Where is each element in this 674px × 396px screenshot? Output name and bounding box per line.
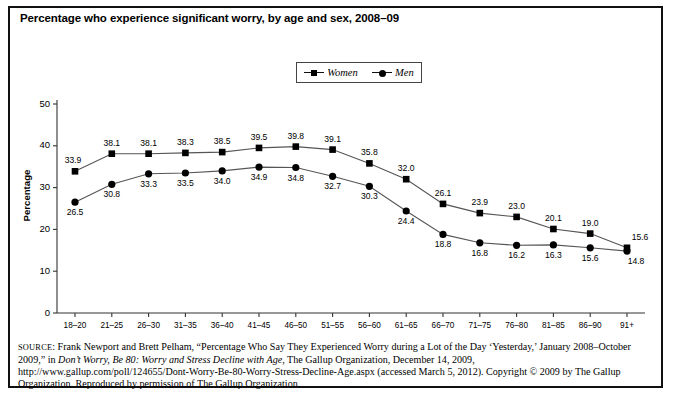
chart-axes (57, 100, 645, 313)
y-tick-label: 40 (39, 139, 50, 150)
data-point-women (329, 146, 336, 153)
data-point-women (477, 210, 484, 217)
source-note: SOURCE: Frank Newport and Brett Pelham, … (18, 341, 648, 390)
data-point-men (439, 231, 446, 238)
data-point-women (109, 150, 116, 157)
data-label-women: 38.1 (140, 138, 157, 148)
data-label-women: 38.3 (177, 137, 194, 147)
data-point-men (587, 244, 594, 251)
y-tick-label: 20 (39, 223, 50, 234)
data-point-men (366, 183, 373, 190)
data-point-men (71, 199, 78, 206)
data-label-men: 16.8 (471, 248, 488, 258)
data-label-men: 16.3 (545, 250, 562, 260)
data-label-women: 39.1 (324, 134, 341, 144)
x-tick-label: 91+ (620, 321, 634, 330)
x-tick-label: 46–50 (284, 321, 307, 330)
data-point-men (219, 167, 226, 174)
data-point-men (550, 241, 557, 248)
x-tick-label: 66–70 (432, 321, 455, 330)
source-italic-title: Don’t Worry, Be 80: Worry and Stress Dec… (58, 354, 282, 365)
x-axis-ticks: 18–2021–2526–3031–3536–4041–4546–5051–55… (64, 313, 635, 330)
data-label-women: 33.9 (65, 155, 82, 165)
data-point-women (182, 150, 189, 157)
data-point-men (329, 173, 336, 180)
data-label-women: 39.5 (251, 132, 268, 142)
data-label-men: 26.5 (67, 207, 84, 217)
data-label-men: 30.3 (361, 191, 378, 201)
data-label-men: 32.7 (324, 181, 341, 191)
data-label-men: 34.9 (251, 172, 268, 182)
data-label-women: 19.0 (582, 218, 599, 228)
x-tick-label: 21–25 (100, 321, 123, 330)
data-label-men: 14.8 (628, 256, 645, 266)
data-point-women (440, 201, 447, 208)
data-point-men (292, 164, 299, 171)
x-tick-label: 41–45 (248, 321, 271, 330)
data-point-women (587, 230, 594, 237)
x-tick-label: 18–20 (64, 321, 87, 330)
y-tick-label: 30 (39, 181, 50, 192)
data-point-men (476, 239, 483, 246)
source-prefix: SOURCE (18, 343, 52, 352)
data-point-men (255, 164, 262, 171)
data-label-women: 35.8 (361, 147, 378, 157)
data-point-women (145, 150, 152, 157)
data-label-women: 23.0 (508, 201, 525, 211)
y-tick-label: 50 (39, 98, 50, 109)
x-tick-label: 86–90 (579, 321, 602, 330)
data-point-men (513, 242, 520, 249)
x-tick-label: 56–60 (358, 321, 381, 330)
data-label-men: 16.2 (508, 250, 525, 260)
x-tick-label: 26–30 (137, 321, 160, 330)
x-tick-label: 76–80 (505, 321, 528, 330)
data-label-men: 34.0 (214, 176, 231, 186)
data-point-men (182, 169, 189, 176)
data-point-men (108, 181, 115, 188)
data-label-men: 15.6 (582, 253, 599, 263)
y-tick-label: 10 (39, 265, 50, 276)
data-label-women: 15.6 (632, 232, 649, 242)
data-label-men: 34.8 (287, 173, 304, 183)
data-label-women: 39.8 (287, 131, 304, 141)
chart-series (71, 143, 630, 254)
data-point-men (145, 170, 152, 177)
x-tick-label: 61–65 (395, 321, 418, 330)
data-point-women (256, 145, 263, 152)
x-tick-label: 36–40 (211, 321, 234, 330)
x-tick-label: 81–85 (542, 321, 565, 330)
series-line-men (75, 167, 627, 251)
data-point-men (623, 248, 630, 255)
data-label-men: 24.4 (398, 216, 415, 226)
data-point-women (366, 160, 373, 167)
data-point-women (72, 168, 79, 175)
x-tick-label: 31–35 (174, 321, 197, 330)
data-label-men: 33.5 (177, 178, 194, 188)
y-tick-label: 0 (45, 307, 50, 318)
x-tick-label: 51–55 (321, 321, 344, 330)
data-point-men (403, 207, 410, 214)
data-point-women (219, 149, 226, 156)
data-label-women: 32.0 (398, 163, 415, 173)
data-label-men: 33.3 (140, 179, 157, 189)
figure-panel: Percentage who experience significant wo… (0, 0, 674, 396)
data-point-women (550, 226, 557, 233)
y-axis-ticks: 01020304050 (39, 98, 57, 318)
data-point-women (293, 143, 300, 150)
data-label-women: 26.1 (435, 188, 452, 198)
data-label-women: 38.5 (214, 136, 231, 146)
data-label-men: 18.8 (435, 239, 452, 249)
series-line-women (75, 147, 627, 248)
chart-plot-area: 01020304050 18–2021–2526–3031–3536–4041–… (0, 0, 674, 396)
data-label-men: 30.8 (103, 189, 120, 199)
data-label-women: 38.1 (103, 138, 120, 148)
data-label-women: 20.1 (545, 213, 562, 223)
data-point-women (513, 214, 520, 221)
data-point-women (403, 176, 410, 183)
data-label-women: 23.9 (471, 197, 488, 207)
x-tick-label: 71–75 (468, 321, 491, 330)
